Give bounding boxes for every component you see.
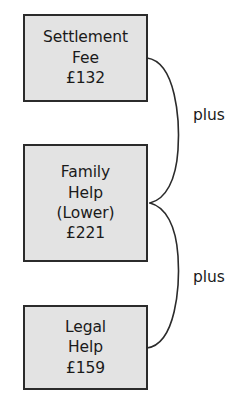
cost-box-line: Help: [68, 337, 103, 357]
cost-box-line: Family: [61, 162, 110, 182]
plus-label-lower: plus: [193, 270, 225, 286]
cost-box-amount: £159: [66, 358, 105, 378]
fee-components-diagram: Settlement Fee £132 Family Help (Lower) …: [0, 0, 251, 410]
cost-box-line: Fee: [72, 48, 99, 68]
cost-box-settlement-fee: Settlement Fee £132: [23, 14, 148, 102]
brace-curve-upper: [147, 58, 178, 203]
plus-label-upper: plus: [193, 108, 225, 124]
cost-box-amount: £132: [66, 68, 105, 88]
cost-box-amount: £221: [66, 223, 105, 243]
cost-box-family-help: Family Help (Lower) £221: [23, 144, 148, 262]
cost-box-line: Help: [68, 183, 103, 203]
cost-box-line: Legal: [65, 317, 106, 337]
cost-box-legal-help: Legal Help £159: [23, 305, 148, 390]
cost-box-line: (Lower): [57, 203, 115, 223]
brace-curve-lower: [147, 203, 178, 348]
cost-box-line: Settlement: [43, 27, 128, 47]
